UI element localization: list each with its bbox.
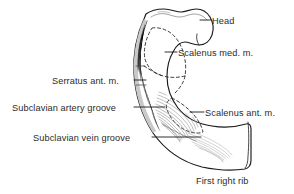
label-subclavian-vein-groove: Subclavian vein groove [33,133,130,144]
label-serratus-anterior: Serratus ant. m. [52,76,119,87]
attachment-connector-dashed [175,76,185,93]
rib-bone-outline [134,9,251,170]
anatomical-figure: Head Scalenus med. m. Serratus ant. m. S… [0,0,294,194]
rib-outer-contour [134,9,251,170]
rib-illustration [0,0,294,194]
label-first-right-rib: First right rib [196,176,249,187]
label-scalenus-medius: Scalenus med. m. [178,48,253,59]
label-head: Head [212,16,234,27]
label-scalenus-anterior: Scalenus ant. m. [205,108,275,119]
label-subclavian-artery-groove: Subclavian artery groove [12,103,116,114]
